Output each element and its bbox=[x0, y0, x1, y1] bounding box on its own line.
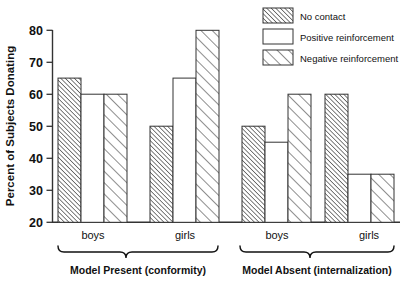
legend-swatch-positive-reinforcement bbox=[263, 29, 293, 44]
cat-label-ma-boys: boys bbox=[265, 229, 289, 241]
legend-label-negative-reinforcement: Negative reinforcement bbox=[300, 53, 399, 64]
bar-mp-girls-negative bbox=[196, 30, 219, 222]
cat-label-mp-girls: girls bbox=[175, 229, 196, 241]
bar-mp-girls-positive bbox=[173, 78, 196, 222]
group-label-model-absent: Model Absent (internalization) bbox=[242, 264, 392, 276]
bar-ma-boys-no-contact bbox=[242, 126, 265, 222]
legend-label-no-contact: No contact bbox=[300, 11, 346, 22]
bar-ma-boys-negative bbox=[288, 94, 311, 222]
chart-canvas: 80 70 60 50 40 30 20 Percent of Subjects… bbox=[0, 0, 413, 284]
bar-mp-girls-no-contact bbox=[150, 126, 173, 222]
y-tick-label-20: 20 bbox=[29, 216, 43, 230]
legend-label-positive-reinforcement: Positive reinforcement bbox=[300, 32, 394, 43]
bar-ma-girls-positive bbox=[348, 174, 371, 222]
y-tick-label-40: 40 bbox=[29, 152, 43, 166]
y-tick-label-80: 80 bbox=[29, 24, 43, 38]
cat-label-mp-boys: boys bbox=[81, 229, 105, 241]
y-tick-label-50: 50 bbox=[29, 120, 43, 134]
legend-swatch-negative-reinforcement bbox=[263, 50, 293, 65]
bar-ma-girls-negative bbox=[371, 174, 394, 222]
bar-ma-girls-no-contact bbox=[325, 94, 348, 222]
cat-label-ma-girls: girls bbox=[359, 229, 380, 241]
bar-mp-boys-positive bbox=[81, 94, 104, 222]
y-tick-label-60: 60 bbox=[29, 88, 43, 102]
bar-ma-boys-positive bbox=[265, 142, 288, 222]
bar-chart: 80 70 60 50 40 30 20 Percent of Subjects… bbox=[0, 0, 413, 284]
bar-mp-boys-no-contact bbox=[58, 78, 81, 222]
group-label-model-present: Model Present (conformity) bbox=[70, 264, 206, 276]
y-tick-label-30: 30 bbox=[29, 184, 43, 198]
legend-swatch-no-contact bbox=[263, 8, 293, 23]
y-tick-label-70: 70 bbox=[29, 56, 43, 70]
y-axis-title: Percent of Subjects Donating bbox=[4, 46, 16, 206]
bar-mp-boys-negative bbox=[104, 94, 127, 222]
